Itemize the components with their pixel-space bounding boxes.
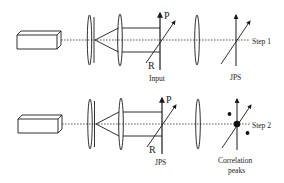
label-r: R (149, 144, 156, 155)
label-correlation: Correlation (218, 156, 252, 165)
optical-correlator-diagram: P R Input JPS Step 1 P R JPS Ste (0, 0, 284, 183)
label-input-plane: Input (149, 74, 166, 83)
label-jps: JPS (230, 73, 241, 82)
label-peaks: peaks (228, 166, 245, 175)
correlation-peak-upper (228, 112, 232, 116)
row-step-1: P R Input JPS Step 1 (17, 10, 271, 83)
label-jps-input: JPS (155, 158, 166, 167)
label-p: P (164, 10, 170, 21)
laser-source-icon (17, 31, 61, 49)
step-label: Step 1 (252, 37, 271, 46)
laser-source-icon (18, 115, 62, 133)
label-r: R (148, 60, 155, 71)
step-label: Step 2 (252, 121, 271, 130)
correlation-peak-center (234, 121, 241, 128)
label-p: P (166, 94, 172, 105)
correlation-peak-lower (246, 131, 250, 135)
row-step-2: P R JPS Step 2 Correlation peaks (18, 94, 271, 175)
